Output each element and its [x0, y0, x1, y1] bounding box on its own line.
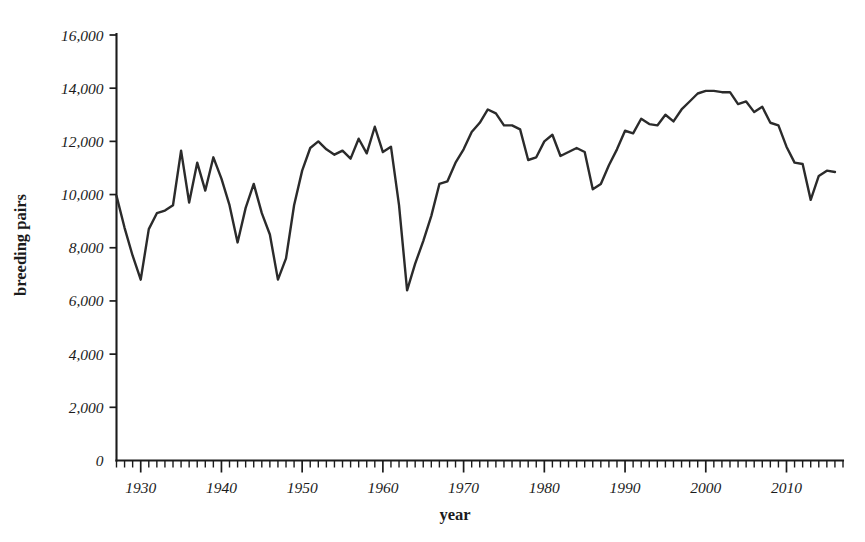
chart-container: 02,0004,0006,0008,00010,00012,00014,0001…	[0, 0, 865, 542]
y-axis-tick-label: 4,000	[69, 346, 104, 363]
y-axis-tick-label: 10,000	[61, 186, 104, 203]
data-series-breeding-pairs	[117, 91, 835, 290]
x-axis-tick-label: 1930	[125, 479, 156, 496]
y-axis-tick-label: 6,000	[69, 292, 104, 309]
line-chart: 02,0004,0006,0008,00010,00012,00014,0001…	[0, 0, 865, 542]
y-axis-tick-label: 14,000	[61, 80, 104, 97]
x-axis-tick-label: 1980	[529, 479, 560, 496]
x-axis-title: year	[439, 505, 470, 524]
x-axis-tick-label: 1970	[448, 479, 479, 496]
y-axis-tick-label: 2,000	[69, 399, 104, 416]
y-axis-title: breeding pairs	[11, 193, 30, 295]
y-axis-tick-label: 12,000	[61, 133, 104, 150]
x-axis-tick-label: 1990	[610, 479, 641, 496]
x-axis-tick-label: 1960	[367, 479, 398, 496]
x-axis: 193019401950196019701980199020002010	[117, 461, 844, 496]
x-axis-tick-label: 1940	[206, 479, 237, 496]
y-axis-tick-label: 8,000	[69, 239, 104, 256]
x-axis-tick-label: 2000	[690, 479, 721, 496]
y-axis-tick-label: 16,000	[61, 27, 104, 44]
x-axis-tick-label: 2010	[771, 479, 802, 496]
data-line-breeding-pairs	[117, 91, 835, 290]
x-axis-tick-label: 1950	[287, 479, 318, 496]
y-axis-tick-label: 0	[96, 452, 104, 469]
y-axis: 02,0004,0006,0008,00010,00012,00014,0001…	[61, 27, 117, 470]
